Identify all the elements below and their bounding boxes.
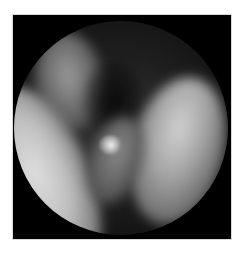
endoscope-field-of-view — [14, 21, 228, 235]
image-frame — [12, 14, 232, 240]
central-lesion — [99, 135, 123, 155]
